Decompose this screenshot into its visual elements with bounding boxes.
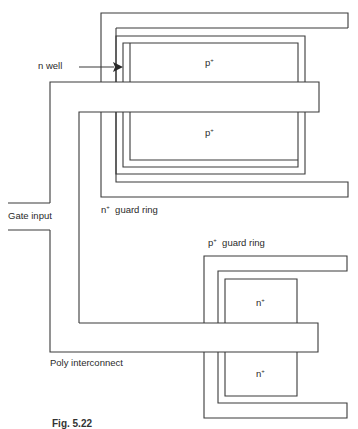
p-guard-ring-label: p+ guard ring (208, 237, 265, 248)
n-plus-top-label: n+ (256, 297, 265, 308)
n-guard-ring-text: guard ring (115, 204, 158, 215)
n-well-label: n well (38, 60, 62, 71)
superscript-plus: + (210, 57, 214, 63)
p-guard-ring-text: guard ring (222, 237, 265, 248)
poly-interconnect-label: Poly interconnect (50, 357, 123, 368)
gate-input-label: Gate input (8, 210, 52, 221)
superscript-plus: + (213, 237, 217, 243)
gate-poly-top (50, 82, 319, 323)
gate-poly-bottom (50, 230, 318, 352)
superscript-plus: + (106, 204, 110, 210)
superscript-plus: + (261, 368, 265, 374)
n-guard-ring (101, 13, 348, 197)
p-plus-bottom-label: p+ (205, 127, 214, 138)
n-guard-ring-label: n+ guard ring (101, 204, 158, 215)
superscript-plus: + (210, 127, 214, 133)
n-plus-bottom-label: n+ (256, 368, 265, 379)
p-plus-top-label: p+ (205, 57, 214, 68)
p-plus-diffusion (130, 43, 298, 160)
figure-caption: Fig. 5.22 (52, 418, 92, 429)
superscript-plus: + (261, 297, 265, 303)
